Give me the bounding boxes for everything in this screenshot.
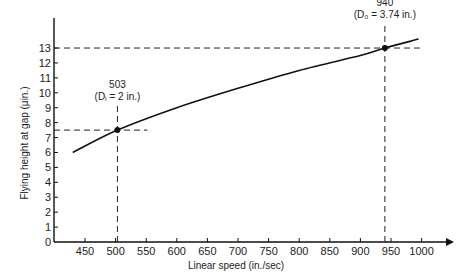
y-tick-label: 2 <box>45 206 51 218</box>
point-value-label: 940 <box>377 0 394 8</box>
x-tick-label: 800 <box>290 245 308 257</box>
y-tick-label: 1 <box>45 221 51 233</box>
y-tick-label: 5 <box>45 161 51 173</box>
x-tick-label: 500 <box>106 245 124 257</box>
x-tick-label: 550 <box>137 245 155 257</box>
x-tick-label: 450 <box>76 245 94 257</box>
y-tick-label: 13 <box>39 42 51 54</box>
data-point-marker <box>114 127 120 133</box>
x-tick-label: 600 <box>168 245 186 257</box>
y-tick-label: 12 <box>39 57 51 69</box>
x-tick-label: 650 <box>198 245 216 257</box>
x-tick-label: 1000 <box>409 245 433 257</box>
x-tick-label: 750 <box>259 245 277 257</box>
y-tick-label: 0 <box>45 236 51 248</box>
axis-ticks: 0123456789101112134505005506006507007508… <box>39 42 434 257</box>
point-diameter-label: (Dᵢ = 2 in.) <box>95 91 141 102</box>
y-tick-label: 3 <box>45 191 51 203</box>
x-tick-label: 850 <box>321 245 339 257</box>
y-tick-label: 10 <box>39 87 51 99</box>
annotated-points: 503(Dᵢ = 2 in.)940(D₀ = 3.74 in.) <box>95 0 416 133</box>
y-tick-label: 6 <box>45 146 51 158</box>
point-diameter-label: (D₀ = 3.74 in.) <box>354 9 416 20</box>
y-tick-label: 8 <box>45 117 51 129</box>
y-tick-label: 7 <box>45 132 51 144</box>
x-axis-arrow-icon <box>446 238 454 246</box>
point-value-label: 503 <box>109 79 126 90</box>
y-axis-label: Flying height at gap (μin.) <box>19 86 30 199</box>
data-point-marker <box>382 45 388 51</box>
y-tick-label: 11 <box>40 72 51 84</box>
x-tick-label: 900 <box>351 245 369 257</box>
x-axis-label: Linear speed (in./sec) <box>188 260 284 271</box>
y-tick-label: 4 <box>45 176 51 188</box>
flying-height-chart: 0123456789101112134505005506006507007508… <box>0 0 474 280</box>
y-tick-label: 9 <box>45 102 51 114</box>
x-tick-label: 700 <box>229 245 247 257</box>
x-tick-label: 950 <box>382 245 400 257</box>
